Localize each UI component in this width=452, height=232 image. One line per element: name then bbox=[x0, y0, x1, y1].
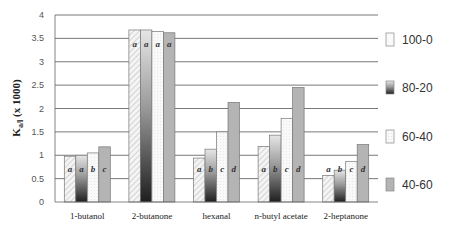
bar bbox=[228, 102, 240, 202]
significance-letter: a bbox=[155, 39, 160, 49]
bar bbox=[99, 147, 111, 202]
bar bbox=[129, 30, 141, 202]
bar-chart: 00.511.522.533.54 aabcaaaaabcdabcdabcd 1… bbox=[0, 0, 452, 232]
y-tick-label: 1 bbox=[39, 150, 44, 160]
significance-letter: a bbox=[132, 39, 137, 49]
bar bbox=[205, 149, 217, 202]
significance-letter: c bbox=[220, 164, 224, 174]
significance-letter: c bbox=[285, 164, 289, 174]
bar bbox=[152, 31, 164, 202]
significance-letter: a bbox=[262, 164, 267, 174]
bar bbox=[281, 118, 293, 202]
significance-letter: a bbox=[167, 39, 172, 49]
bar bbox=[76, 155, 88, 202]
legend-swatch bbox=[386, 81, 394, 94]
legend-item: 100-0 bbox=[386, 33, 433, 47]
bars: aabcaaaaabcdabcdabcd bbox=[64, 30, 368, 202]
bar bbox=[334, 170, 346, 202]
bar bbox=[323, 175, 335, 202]
x-category-label: 2-heptanone bbox=[323, 211, 367, 221]
legend-item: 80-20 bbox=[386, 81, 433, 95]
bar bbox=[258, 146, 270, 202]
y-tick-label: 3 bbox=[39, 57, 44, 67]
significance-letter: c bbox=[349, 164, 353, 174]
legend-label: 40-60 bbox=[402, 178, 433, 192]
y-tick-label: 1.5 bbox=[31, 127, 44, 137]
bar bbox=[163, 33, 175, 202]
legend: 100-080-2060-4040-60 bbox=[386, 33, 433, 192]
significance-letter: a bbox=[197, 164, 202, 174]
legend-swatch bbox=[386, 33, 394, 46]
x-category-label: 1-butanol bbox=[70, 211, 105, 221]
y-tick-label: 0.5 bbox=[31, 174, 44, 184]
x-category-label: hexanal bbox=[203, 211, 231, 221]
legend-label: 100-0 bbox=[402, 33, 433, 47]
significance-letter: b bbox=[273, 164, 278, 174]
significance-letter: a bbox=[144, 39, 149, 49]
significance-letter: d bbox=[296, 164, 301, 174]
legend-item: 60-40 bbox=[386, 130, 433, 144]
x-axis-categories: 1-butanol2-butanonehexanaln-butyl acetat… bbox=[70, 211, 368, 221]
significance-letter: d bbox=[361, 164, 366, 174]
legend-swatch bbox=[386, 178, 394, 191]
y-axis-label: Ka/l (x 1000) bbox=[10, 79, 25, 137]
significance-letter: b bbox=[338, 164, 343, 174]
significance-letter: a bbox=[326, 164, 331, 174]
significance-letter: a bbox=[79, 164, 84, 174]
bar bbox=[64, 156, 76, 202]
bar bbox=[140, 30, 152, 202]
x-category-label: n-butyl acetate bbox=[254, 211, 307, 221]
y-axis-ticks: 00.511.522.533.54 bbox=[31, 10, 44, 207]
bar bbox=[293, 87, 305, 202]
legend-label: 60-40 bbox=[402, 130, 433, 144]
y-tick-label: 4 bbox=[39, 10, 44, 20]
significance-letter: d bbox=[232, 164, 237, 174]
significance-letter: c bbox=[103, 164, 107, 174]
x-category-label: 2-butanone bbox=[132, 211, 173, 221]
bar bbox=[87, 153, 99, 202]
significance-letter: a bbox=[68, 164, 73, 174]
y-tick-label: 2.5 bbox=[31, 80, 44, 90]
legend-swatch bbox=[386, 130, 394, 143]
y-tick-label: 2 bbox=[39, 104, 44, 114]
legend-label: 80-20 bbox=[402, 81, 433, 95]
significance-letter: b bbox=[209, 164, 214, 174]
y-tick-label: 3.5 bbox=[31, 33, 44, 43]
y-tick-label: 0 bbox=[39, 197, 44, 207]
significance-letter: b bbox=[91, 164, 96, 174]
legend-item: 40-60 bbox=[386, 178, 433, 192]
